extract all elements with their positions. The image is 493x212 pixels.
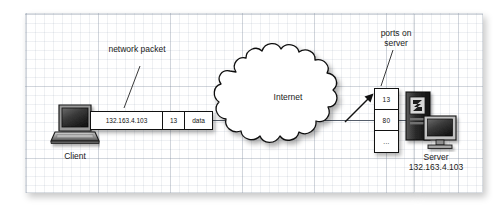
label-network-packet: network packet: [106, 44, 168, 54]
network-packet-box: 132.163.4.103 13 data: [90, 111, 213, 130]
server-ports-stack: 13 80 ...: [374, 88, 399, 153]
port-entry-13: 13: [375, 89, 398, 110]
label-server-name: Server: [385, 152, 487, 162]
label-client: Client: [46, 151, 104, 161]
label-internet: Internet: [248, 92, 328, 102]
packet-field-payload: data: [185, 112, 212, 129]
server-tower-and-monitor-icon: [404, 90, 464, 152]
packet-field-destination-ip: 132.163.4.103: [91, 112, 163, 129]
network-diagram: 132.163.4.103 13 data 13 80 ... network …: [0, 0, 493, 212]
label-server-group: Server 132.163.4.103: [385, 152, 487, 172]
packet-field-destination-port: 13: [163, 112, 185, 129]
label-ports-on-server: ports on server: [368, 28, 424, 48]
port-entry-80: 80: [375, 110, 398, 131]
label-server-ip: 132.163.4.103: [385, 162, 487, 172]
port-entry-more: ...: [375, 131, 398, 152]
